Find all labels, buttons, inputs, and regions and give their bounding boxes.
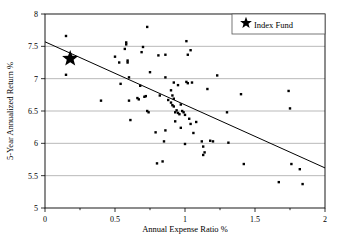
data-point — [163, 140, 165, 142]
data-point — [154, 131, 156, 133]
y-axis-title: 5-Year Annualized Return % — [5, 62, 15, 160]
data-point — [161, 160, 163, 162]
data-point — [128, 99, 130, 101]
data-point — [178, 113, 180, 115]
y-axis-ticks — [41, 14, 45, 208]
data-point — [164, 129, 166, 131]
data-point — [290, 163, 292, 165]
data-point — [185, 40, 187, 42]
data-point — [167, 99, 169, 101]
y-tick-label: 6 — [34, 139, 38, 148]
chart-canvas: 00.511.52 55.566.577.58 Index Fund Annua… — [0, 0, 338, 249]
data-point — [138, 98, 140, 100]
data-point — [184, 143, 186, 145]
y-tick-label: 7.5 — [28, 42, 38, 51]
data-points — [65, 26, 304, 186]
x-tick-label: 1 — [183, 215, 187, 224]
data-point — [174, 120, 176, 122]
legend-label-index-fund: Index Fund — [254, 20, 294, 30]
x-tick-label: 1.5 — [250, 215, 260, 224]
data-point — [170, 101, 172, 103]
data-point — [287, 90, 289, 92]
trend-line — [45, 42, 325, 168]
data-point — [140, 51, 142, 53]
data-point — [240, 93, 242, 95]
data-point — [173, 105, 175, 107]
data-point — [170, 89, 172, 91]
data-point — [209, 140, 211, 142]
data-point — [139, 85, 141, 87]
data-point — [203, 151, 205, 153]
data-point — [202, 154, 204, 156]
data-point — [173, 98, 175, 100]
index-fund-marker — [62, 50, 78, 65]
x-tick-label: 0.5 — [110, 215, 120, 224]
y-tick-label: 5 — [34, 204, 38, 213]
data-point — [129, 119, 131, 121]
data-point — [192, 132, 194, 134]
data-point — [195, 121, 197, 123]
data-point — [182, 111, 184, 113]
data-point — [146, 26, 148, 28]
x-axis-tick-labels: 00.511.52 — [43, 215, 327, 224]
data-point — [126, 61, 128, 63]
data-point — [159, 94, 161, 96]
data-point — [124, 48, 126, 50]
data-point — [142, 46, 144, 48]
y-tick-label: 8 — [34, 10, 38, 19]
data-point — [171, 94, 173, 96]
x-tick-label: 2 — [323, 215, 327, 224]
data-point — [157, 54, 159, 56]
data-point — [289, 107, 291, 109]
data-point — [187, 54, 189, 56]
data-point — [187, 82, 189, 84]
data-point — [227, 141, 229, 143]
y-tick-label: 5.5 — [28, 172, 38, 181]
data-point — [125, 43, 127, 45]
data-point — [191, 81, 193, 83]
data-point — [226, 111, 228, 113]
data-point — [156, 162, 158, 164]
data-point — [278, 181, 280, 183]
index-fund-star-icon — [62, 50, 78, 65]
data-point — [189, 123, 191, 125]
data-point — [201, 140, 203, 142]
data-point — [180, 103, 182, 105]
scatter-chart-figure: 00.511.52 55.566.577.58 Index Fund Annua… — [0, 0, 338, 249]
data-point — [177, 84, 179, 86]
data-point — [189, 49, 191, 51]
y-axis-tick-labels: 55.566.577.58 — [28, 10, 38, 213]
data-point — [202, 145, 204, 147]
regression-line — [45, 42, 325, 168]
data-point — [114, 55, 116, 57]
data-point — [65, 74, 67, 76]
data-point — [173, 81, 175, 83]
data-point — [118, 61, 120, 63]
data-point — [128, 76, 130, 78]
x-axis-ticks — [45, 208, 325, 212]
y-tick-label: 7 — [34, 75, 38, 84]
data-point — [184, 114, 186, 116]
data-point — [145, 95, 147, 97]
data-point — [243, 163, 245, 165]
data-point — [164, 54, 166, 56]
data-point — [206, 88, 208, 90]
data-point — [212, 140, 214, 142]
data-point — [299, 168, 301, 170]
data-point — [164, 76, 166, 78]
grid-lines — [45, 46, 325, 175]
data-point — [216, 74, 218, 76]
x-axis-title: Annual Expense Ratio % — [142, 224, 228, 234]
data-point — [147, 111, 149, 113]
data-point — [119, 83, 121, 85]
x-tick-label: 0 — [43, 215, 47, 224]
legend: Index Fund — [232, 14, 325, 34]
data-point — [149, 71, 151, 73]
data-point — [188, 118, 190, 120]
data-point — [180, 127, 182, 129]
data-point — [175, 109, 177, 111]
data-point — [100, 99, 102, 101]
data-point — [301, 183, 303, 185]
y-tick-label: 6.5 — [28, 107, 38, 116]
data-point — [65, 35, 67, 37]
